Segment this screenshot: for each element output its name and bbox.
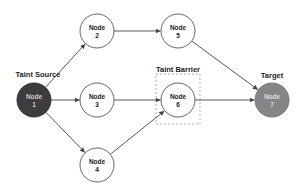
node-title: Node xyxy=(89,24,106,31)
node-number: 4 xyxy=(95,166,99,173)
node-number: 5 xyxy=(176,32,180,39)
edges xyxy=(45,31,257,154)
node-number: 1 xyxy=(32,101,36,108)
node-title: Node xyxy=(89,158,106,165)
node-title: Node xyxy=(26,93,43,100)
taint-source-label: Taint Source xyxy=(16,70,61,79)
node-6[interactable]: Node6 xyxy=(161,83,195,117)
nodes: Node1Node2Node3Node4Node5Node6Node7 xyxy=(17,14,289,182)
node-title: Node xyxy=(264,93,281,100)
edge-4-to-6 xyxy=(110,111,164,154)
target-label: Target xyxy=(261,71,284,80)
taint-flow-diagram: Node1Node2Node3Node4Node5Node6Node7 Tain… xyxy=(0,0,302,192)
node-number: 6 xyxy=(176,101,180,108)
edge-5-to-7 xyxy=(192,41,258,90)
node-1[interactable]: Node1 xyxy=(17,83,51,117)
node-4[interactable]: Node4 xyxy=(80,148,114,182)
node-title: Node xyxy=(170,24,187,31)
node-3[interactable]: Node3 xyxy=(80,83,114,117)
taint-barrier-label: Taint Barrier xyxy=(156,65,200,74)
node-number: 3 xyxy=(95,101,99,108)
node-number: 2 xyxy=(95,32,99,39)
edge-1-to-2 xyxy=(45,44,85,88)
node-5[interactable]: Node5 xyxy=(161,14,195,48)
node-7[interactable]: Node7 xyxy=(255,83,289,117)
node-title: Node xyxy=(89,93,106,100)
edge-1-to-4 xyxy=(46,112,85,152)
node-2[interactable]: Node2 xyxy=(80,14,114,48)
node-number: 7 xyxy=(270,101,274,108)
node-title: Node xyxy=(170,93,187,100)
